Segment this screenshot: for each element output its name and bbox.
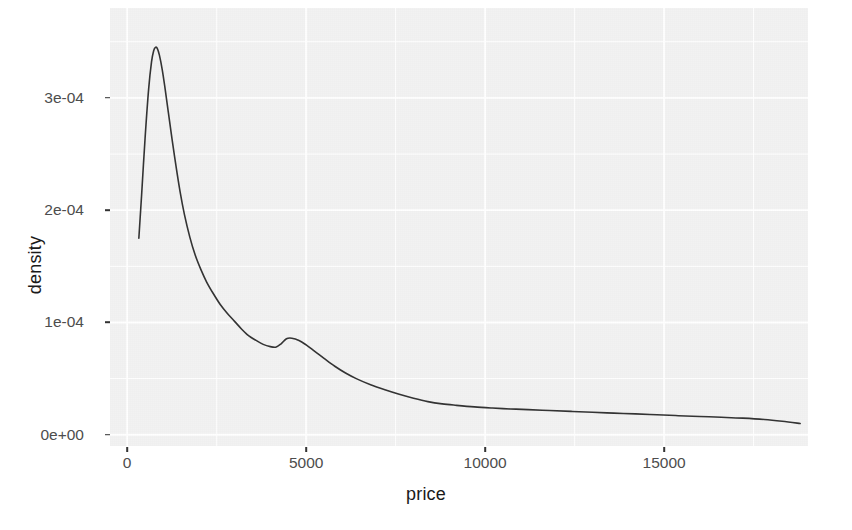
plot-panel <box>110 8 808 446</box>
x-axis-title: price <box>0 484 852 505</box>
x-axis-tick-mark <box>663 447 665 452</box>
y-axis-tick-label: 2e-04 <box>12 202 84 218</box>
major-gridlines <box>110 8 808 446</box>
y-axis-tick-mark <box>105 322 110 324</box>
minor-gridlines <box>110 8 808 446</box>
density-plot-figure: price density 0e+001e-042e-043e-04050001… <box>0 0 852 530</box>
y-axis-tick-label: 0e+00 <box>12 427 84 443</box>
plot-canvas <box>110 8 808 446</box>
x-axis-tick-mark <box>126 447 128 452</box>
density-curve <box>139 47 800 423</box>
x-axis-tick-mark <box>484 447 486 452</box>
y-axis-tick-mark <box>105 434 110 436</box>
x-axis-tick-label: 10000 <box>464 455 507 471</box>
x-axis-tick-label: 5000 <box>289 455 323 471</box>
x-axis-tick-label: 0 <box>123 455 132 471</box>
y-axis-tick-label: 1e-04 <box>12 315 84 331</box>
x-axis-tick-mark <box>305 447 307 452</box>
y-axis-title: density <box>25 236 46 294</box>
x-axis-tick-label: 15000 <box>643 455 686 471</box>
y-axis-tick-mark <box>105 97 110 99</box>
y-axis-tick-label: 3e-04 <box>12 90 84 106</box>
y-axis-tick-mark <box>105 209 110 211</box>
